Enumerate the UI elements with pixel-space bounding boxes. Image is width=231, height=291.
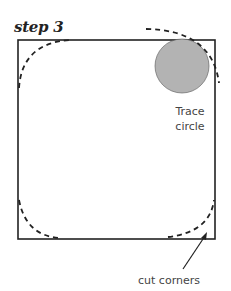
trace-label-line2: circle — [170, 119, 210, 134]
trace-circle — [155, 39, 209, 93]
arrow-line — [183, 236, 205, 269]
trace-label-line1: Trace — [170, 104, 210, 119]
cut-corner-top-left — [19, 40, 70, 88]
cut-corner-bottom-left — [19, 200, 60, 238]
cut-corner-bottom-right — [168, 200, 214, 237]
trace-label: Trace circle — [170, 104, 210, 134]
cut-corners-label: cut corners — [134, 273, 204, 288]
diagram — [0, 0, 231, 291]
